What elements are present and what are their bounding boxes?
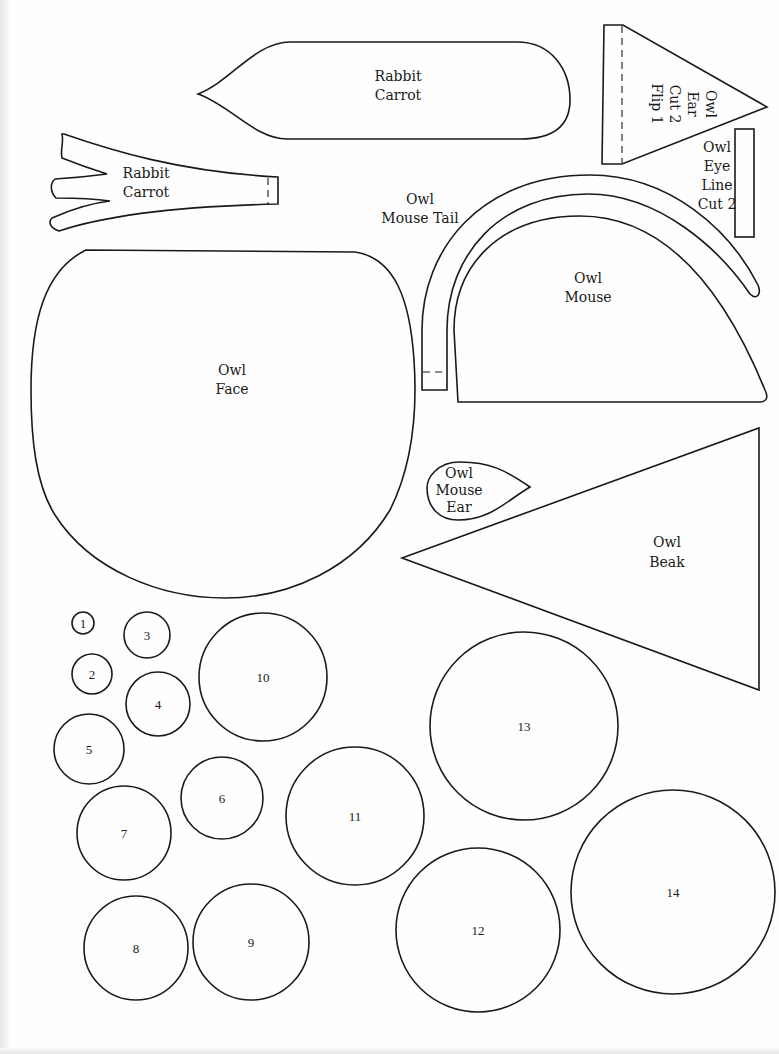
piece-owl-ear: Owl Ear Cut 2 Flip 1 [602,25,767,164]
label-line: Owl [218,362,246,378]
circle-piece: 13 [430,632,618,820]
circle-piece: 7 [77,786,171,880]
circle-number: 5 [86,742,93,757]
label-line: Ear [685,91,701,117]
circle-number: 2 [89,667,96,682]
circle-piece: 3 [124,612,170,658]
label-line: Owl [703,90,719,118]
piece-rabbit-carrot-top: Rabbit Carrot [50,134,278,231]
circle-piece: 11 [286,747,424,885]
pattern-sheet: Rabbit Carrot Rabbit Carrot Owl Ear Cut … [0,0,779,1054]
circle-piece: 2 [72,654,112,694]
label-line: Mouse Tail [381,210,459,226]
circle-piece: 5 [54,714,124,784]
piece-owl-mouse: Owl Mouse [454,216,767,402]
label-line: Owl [445,465,473,481]
piece-owl-eye-line: Owl Eye Line Cut 2 [698,129,754,237]
circle-number: 6 [219,791,226,806]
circle-number: 1 [80,616,87,631]
circle-piece: 9 [193,884,309,1000]
label-line: Mouse [564,289,611,305]
label-line: Face [215,381,248,397]
label-line: Eye [704,158,730,174]
circle-piece: 6 [181,757,263,839]
label-line: Cut 2 [698,196,737,212]
label-line: Ear [446,499,472,515]
circle-number: 13 [518,719,531,734]
label-line: Cut 2 [667,85,683,124]
label-line: Flip 1 [649,84,665,125]
circle-piece: 1 [72,612,94,634]
numbered-circles: 1234567891011121314 [54,612,775,1012]
label-line: Line [701,177,732,193]
label-line: Beak [649,554,685,570]
circle-number: 11 [349,809,362,824]
piece-owl-face: Owl Face [31,250,415,598]
circle-number: 10 [257,670,270,685]
circle-piece: 4 [126,672,190,736]
pattern-canvas: Rabbit Carrot Rabbit Carrot Owl Ear Cut … [0,0,779,1054]
label-line: Owl [653,534,681,550]
circle-number: 3 [144,628,151,643]
circle-piece: 12 [396,848,560,1012]
circle-number: 7 [121,826,128,841]
circle-piece: 8 [84,896,188,1000]
label-line: Rabbit [122,165,170,181]
piece-owl-mouse-ear: Owl Mouse Ear [427,462,530,520]
label-line: Carrot [123,184,170,200]
circle-number: 12 [472,923,485,938]
label-line: Rabbit [374,68,422,84]
label-line: Owl [574,270,602,286]
circle-number: 8 [133,941,140,956]
label-line: Owl [406,191,434,207]
circle-number: 14 [667,885,681,900]
label-line: Carrot [375,87,422,103]
label-line: Owl [703,139,731,155]
label-line: Mouse [435,482,482,498]
circle-piece: 10 [199,613,327,741]
circle-number: 4 [155,697,162,712]
circle-number: 9 [248,935,255,950]
piece-rabbit-carrot-body: Rabbit Carrot [198,42,570,139]
circle-piece: 14 [571,790,775,994]
